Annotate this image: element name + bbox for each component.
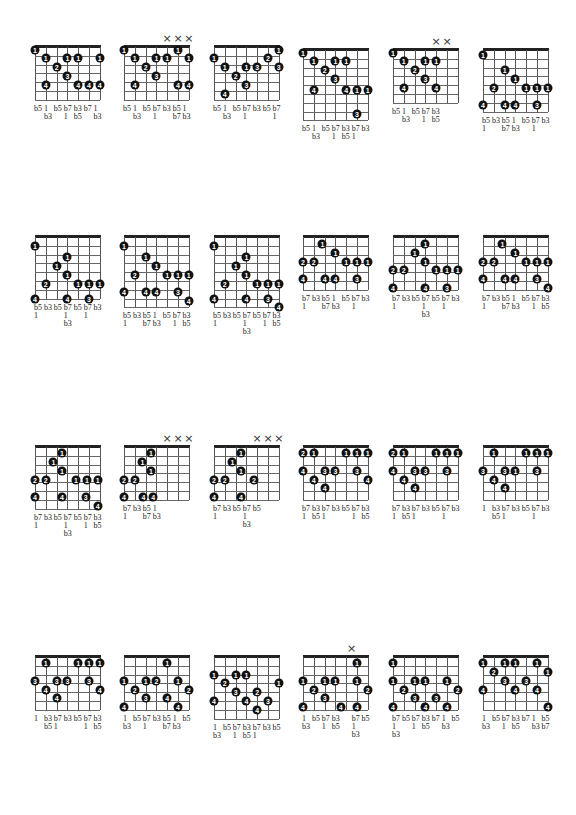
fret-line [214, 465, 279, 466]
interval-label: 1 [332, 133, 336, 141]
interval-label: b3 [263, 724, 271, 732]
interval-label: b5 [522, 505, 530, 513]
string-line [368, 657, 369, 710]
finger-dot: 1 [479, 659, 488, 668]
interval-label: b3 [44, 514, 52, 522]
interval-label: b5 [74, 304, 82, 312]
fret-line [124, 465, 189, 466]
interval-label: b7 [432, 715, 440, 723]
fretboard-grid [35, 237, 100, 299]
interval-label: b7 [143, 513, 151, 521]
finger-dot: 1 [141, 676, 150, 685]
interval-label: 1 [532, 125, 536, 133]
interval-label: 1 [502, 513, 506, 521]
finger-dot: 4 [500, 275, 509, 284]
finger-dot: 1 [152, 262, 161, 271]
interval-label: 1 [322, 513, 326, 521]
muted-string-x-icon: × [347, 643, 356, 654]
finger-dot: 1 [163, 270, 172, 279]
finger-dot: 1 [421, 57, 430, 66]
finger-dot: 1 [309, 449, 318, 458]
interval-label: b3 [243, 328, 251, 336]
interval-label: b3 [452, 295, 460, 303]
fret-line [483, 290, 548, 291]
finger-dot: 2 [399, 685, 408, 694]
finger-dot: 1 [353, 85, 362, 94]
finger-dot: 4 [421, 703, 430, 712]
muted-string-x-icon: × [442, 36, 451, 47]
finger-dot: 3 [443, 466, 452, 475]
interval-label: b3 [163, 105, 171, 113]
interval-label: 1 [392, 303, 396, 311]
interval-label: 1 [482, 125, 486, 133]
muted-string-x-icon: × [163, 433, 172, 444]
finger-dot: 1 [210, 241, 219, 250]
finger-dot: 4 [58, 493, 67, 502]
finger-dot: 1 [543, 667, 552, 676]
finger-dot: 1 [410, 248, 419, 257]
fretboard-grid [214, 447, 279, 500]
finger-dot: 3 [85, 294, 94, 303]
finger-dot: 1 [242, 253, 251, 262]
fret-line [214, 692, 279, 693]
interval-label: b5 [422, 723, 430, 731]
finger-dot: 3 [432, 694, 441, 703]
interval-label: b3 [492, 117, 500, 125]
finger-dot: 1 [174, 45, 183, 54]
interval-label: b7 [502, 125, 510, 133]
finger-dot: 3 [320, 466, 329, 475]
fret-line [35, 100, 100, 101]
finger-dot: 1 [511, 75, 520, 84]
interval-label: b3 [302, 723, 310, 731]
fret-line [35, 456, 100, 457]
interval-label: 1 [213, 513, 217, 521]
interval-label: 1 [422, 116, 426, 124]
finger-dot: 1 [93, 475, 102, 484]
interval-label: 1 [64, 113, 68, 121]
finger-dot: 4 [353, 703, 362, 712]
finger-dot: 2 [309, 685, 318, 694]
finger-dot: 4 [511, 101, 520, 110]
finger-dot: 1 [74, 659, 83, 668]
interval-label: b3 [253, 105, 261, 113]
interval-label: b3 [243, 521, 251, 529]
finger-dot: 4 [500, 484, 509, 493]
interval-label: b5 [432, 116, 440, 124]
fret-line [214, 100, 279, 101]
finger-dot: 2 [410, 66, 419, 75]
finger-dot: 2 [389, 266, 398, 275]
interval-label: b3 [223, 312, 231, 320]
finger-dot: 1 [210, 54, 219, 63]
interval-label: b5 [302, 125, 310, 133]
fret-line [124, 100, 189, 101]
interval-label: b3 [532, 723, 540, 731]
finger-dot: 4 [141, 288, 150, 297]
fret-line [35, 465, 100, 466]
finger-dot: 1 [331, 676, 340, 685]
finger-dot: 2 [253, 688, 262, 697]
fret-line [483, 112, 548, 113]
interval-label: b5 [133, 715, 141, 723]
fret-line [214, 500, 279, 501]
interval-label: 1 [352, 133, 356, 141]
finger-dot: 1 [533, 257, 542, 266]
finger-dot: 3 [331, 75, 340, 84]
fret-line [303, 246, 368, 247]
string-line [100, 237, 101, 299]
interval-label: b3 [153, 320, 161, 328]
finger-dot: 4 [210, 493, 219, 502]
string-line [458, 237, 459, 290]
interval-label: 1 [123, 320, 127, 328]
finger-dot: 4 [174, 80, 183, 89]
finger-dot: 4 [336, 703, 345, 712]
muted-string-x-icon: × [184, 433, 193, 444]
finger-dot: 4 [331, 275, 340, 284]
string-line [189, 447, 190, 500]
finger-dot: 3 [152, 72, 161, 81]
fret-line [124, 91, 189, 92]
finger-dot: 1 [363, 449, 372, 458]
interval-label: b5 [263, 105, 271, 113]
interval-label: b5 [542, 303, 550, 311]
finger-dot: 2 [399, 266, 408, 275]
interval-label: b7 [143, 320, 151, 328]
